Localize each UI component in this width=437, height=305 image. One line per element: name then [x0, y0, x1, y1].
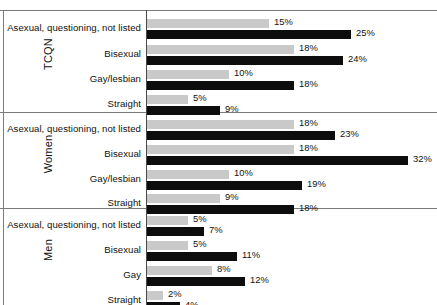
bar-light: [147, 45, 294, 54]
bar-dark: [147, 131, 335, 140]
bar-dark: [147, 227, 204, 236]
bar-row: Bisexual 5% 11%: [0, 236, 437, 264]
bar-light: [147, 95, 188, 104]
bar-dark-value: 24%: [348, 53, 367, 64]
category-label: Asexual, questioning, not listed: [7, 123, 141, 134]
bar-dark: [147, 277, 245, 286]
bar-row: Bisexual 18% 24%: [0, 40, 437, 68]
group-panel-men: Men Asexual, questioning, not listed 5% …: [0, 208, 437, 305]
bar-dark-value: 32%: [413, 153, 432, 164]
bar-light-value: 5%: [193, 238, 207, 249]
category-label: Bisexual: [104, 48, 141, 59]
category-label: Straight: [108, 294, 141, 305]
bar-dark: [147, 81, 294, 90]
bar-dark-value: 11%: [242, 249, 260, 260]
bar-row: Asexual, questioning, not listed 5% 7%: [0, 211, 437, 239]
bar-dark-value: 23%: [340, 128, 359, 139]
category-label: Asexual, questioning, not listed: [7, 22, 141, 33]
category-label: Gay/lesbian: [90, 73, 141, 84]
bar-dark-value: 4%: [185, 299, 199, 305]
bar-light: [147, 216, 188, 225]
grouped-bar-chart: TCQN Asexual, questioning, not listed 15…: [0, 0, 437, 305]
category-label: Gay/lesbian: [90, 173, 141, 184]
bar-light-value: 15%: [274, 16, 293, 27]
category-label: Straight: [108, 197, 141, 208]
group-panel-tcqn: TCQN Asexual, questioning, not listed 15…: [0, 10, 437, 112]
bar-light: [147, 291, 163, 300]
bar-light: [147, 120, 294, 129]
bar-dark-value: 7%: [209, 224, 223, 235]
bar-dark: [147, 156, 408, 165]
group-panel-women: Women Asexual, questioning, not listed 1…: [0, 112, 437, 208]
bar-row: Asexual, questioning, not listed 15% 25%: [0, 14, 437, 42]
bar-light-value: 5%: [193, 213, 207, 224]
bar-row: Asexual, questioning, not listed 18% 23%: [0, 115, 437, 143]
category-label: Bisexual: [104, 148, 141, 159]
bar-light-value: 2%: [168, 288, 182, 299]
category-label: Bisexual: [104, 244, 141, 255]
bar-light-value: 9%: [225, 191, 239, 202]
bar-light-value: 18%: [299, 117, 318, 128]
bar-light-value: 8%: [217, 263, 231, 274]
bar-dark: [147, 252, 237, 261]
bar-dark: [147, 30, 351, 39]
bar-dark-value: 12%: [250, 274, 269, 285]
category-label: Gay: [123, 269, 141, 280]
bar-row: Straight 2% 4%: [0, 286, 437, 305]
bar-light: [147, 70, 229, 79]
bar-row: Gay 8% 12%: [0, 261, 437, 289]
bar-dark-value: 18%: [299, 78, 318, 89]
category-label: Straight: [108, 98, 141, 109]
bar-row: Bisexual 18% 32%: [0, 140, 437, 168]
bar-light-value: 18%: [299, 42, 318, 53]
category-label: Asexual, questioning, not listed: [7, 219, 141, 230]
bar-dark-value: 19%: [307, 178, 326, 189]
bar-light-value: 10%: [234, 167, 253, 178]
bar-light: [147, 19, 269, 28]
bar-light: [147, 170, 229, 179]
bar-row: Gay/lesbian 10% 18%: [0, 65, 437, 93]
bar-light: [147, 145, 294, 154]
bar-dark-value: 25%: [356, 27, 375, 38]
bar-light-value: 10%: [234, 67, 253, 78]
bar-light-value: 5%: [193, 92, 207, 103]
bar-light: [147, 194, 220, 203]
bar-light: [147, 266, 212, 275]
bar-light-value: 18%: [299, 142, 318, 153]
bar-light: [147, 241, 188, 250]
bar-dark: [147, 56, 343, 65]
